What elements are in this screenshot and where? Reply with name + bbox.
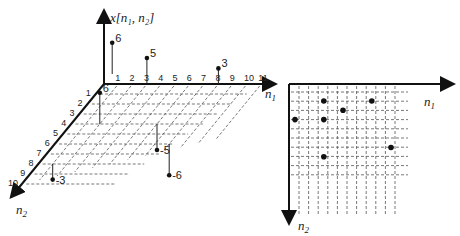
sample-point: [50, 177, 55, 182]
n2-tick-label: 8: [28, 158, 33, 168]
support-point: [321, 154, 327, 160]
support-point: [388, 145, 394, 151]
support-point: [369, 98, 375, 104]
sample-point: [145, 56, 150, 61]
n1-tick-label: 1: [115, 73, 120, 83]
n1-tick-label: 5: [173, 73, 178, 83]
n2-tick-label: 9: [20, 168, 25, 178]
sample-value-label: -3: [56, 174, 66, 186]
sample-value-label: -6: [172, 169, 182, 181]
n1-axis-label: n1: [265, 86, 276, 103]
sample-point: [155, 148, 160, 153]
sample-value-label: 6: [103, 82, 109, 94]
n2-tick-label: 2: [78, 98, 83, 108]
support-point: [321, 98, 327, 104]
diagram-svg: x[n₁, n₂] n1 n2 123456789101112345678910…: [0, 0, 460, 236]
right-n1-axis-label: n1: [424, 94, 435, 111]
support-point: [321, 117, 327, 123]
n1-tick-label: 4: [158, 73, 163, 83]
sample-point: [216, 66, 221, 71]
n2-tick-label: 3: [69, 108, 74, 118]
sample-value-label: 5: [150, 47, 156, 59]
n2-tick-label: 10: [8, 178, 18, 188]
n2-tick-label: 1: [86, 88, 91, 98]
sample-point: [167, 173, 172, 178]
sample-value-label: 6: [115, 32, 121, 44]
n1-tick-label: 7: [201, 73, 206, 83]
sample-stems: 6536-5-3-6: [50, 32, 227, 186]
n1-tick-label: 10: [244, 73, 254, 83]
sample-value-label: -5: [160, 144, 170, 156]
n2-tick-label: 6: [45, 138, 50, 148]
n2-tick-label: 7: [37, 148, 42, 158]
n1-tick-label: 11: [258, 73, 267, 83]
right-grid: [291, 86, 408, 216]
n2-tick-label: 4: [61, 118, 66, 128]
sample-point: [98, 91, 103, 96]
n1-tick-label: 2: [130, 73, 135, 83]
support-point: [340, 108, 346, 114]
vertical-axis-label: x[n₁, n₂]: [109, 10, 154, 25]
n2-tick-label: 5: [53, 128, 58, 138]
n1-tick-label: 6: [187, 73, 192, 83]
left-3d-plot: x[n₁, n₂] n1 n2 123456789101112345678910…: [8, 10, 276, 219]
support-point: [292, 117, 298, 123]
right-2d-plot: n1 n2: [289, 84, 452, 235]
diagram-canvas: x[n₁, n₂] n1 n2 123456789101112345678910…: [0, 0, 460, 236]
sample-value-label: 3: [221, 57, 227, 69]
right-n2-axis-label: n2: [298, 218, 310, 235]
n1-tick-label: 9: [230, 73, 235, 83]
n2-axis-label: n2: [16, 202, 28, 219]
sample-point: [110, 41, 115, 46]
